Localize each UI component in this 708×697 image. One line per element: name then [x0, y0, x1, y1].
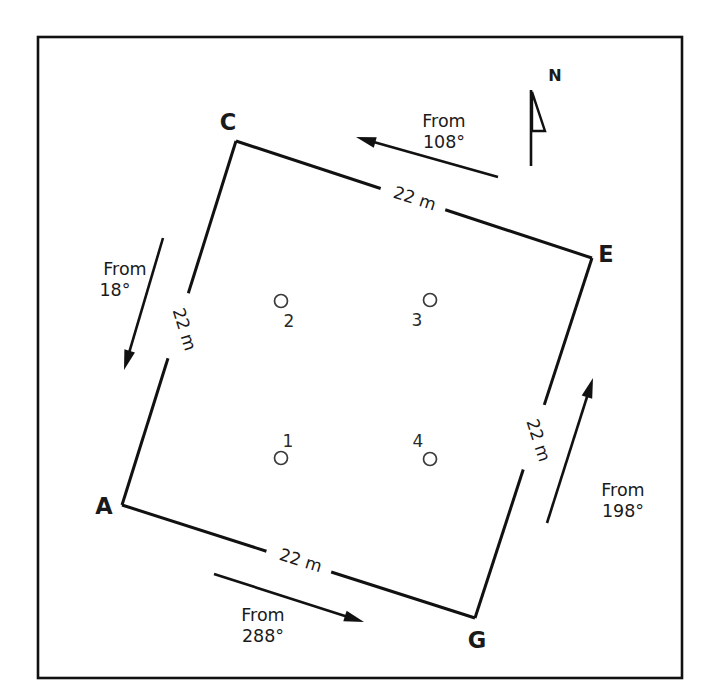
wind-198-from-label: From	[601, 480, 644, 500]
edge-AG-segment	[122, 505, 266, 551]
wind-288-arrowhead	[343, 611, 364, 622]
wind-108-degrees-label: 108°	[423, 132, 465, 152]
north-arrow-icon: N	[531, 66, 562, 166]
edge-CE-segment	[236, 141, 381, 189]
edge-CE-length-label: 22 m	[391, 182, 439, 214]
plot-edges	[122, 141, 592, 618]
edge-EG-segment	[475, 470, 523, 618]
edge-AC-segment	[188, 141, 236, 293]
corner-label-E: E	[598, 241, 613, 267]
station-3-marker	[424, 294, 437, 307]
wind-18-from-label: From	[103, 259, 146, 279]
edge-length-labels: 22 m22 m22 m22 m	[169, 182, 555, 576]
station-1-marker	[275, 452, 288, 465]
corner-label-G: G	[468, 627, 486, 653]
edge-AG-length-label: 22 m	[277, 544, 325, 576]
wind-288-degrees-label: 288°	[242, 626, 284, 646]
wind-18-arrowhead	[124, 349, 135, 370]
station-3-label: 3	[412, 310, 423, 330]
corner-label-A: A	[95, 493, 113, 519]
edge-AG-segment	[331, 572, 475, 618]
wind-18-degrees-label: 18°	[99, 280, 130, 300]
corner-labels: ACEG	[95, 109, 613, 653]
station-4-marker	[424, 453, 437, 466]
wind-198-arrowhead	[582, 378, 593, 399]
wind-direction-arrows: From108°From18°From198°From288°	[99, 111, 644, 646]
edge-AC-length-label: 22 m	[169, 305, 201, 353]
wind-108-from-label: From	[422, 111, 465, 131]
station-4-label: 4	[413, 431, 424, 451]
station-2-marker	[275, 295, 288, 308]
station-1-label: 1	[283, 431, 294, 451]
figure-container: 22 m22 m22 m22 m ACEG 1234 From108°From1…	[0, 0, 708, 697]
sampling-stations: 1234	[275, 294, 437, 466]
wind-288-from-label: From	[241, 605, 284, 625]
north-label: N	[548, 66, 561, 85]
edge-EG-segment	[544, 258, 592, 405]
station-2-label: 2	[284, 311, 295, 331]
survey-plot-diagram: 22 m22 m22 m22 m ACEG 1234 From108°From1…	[0, 0, 708, 697]
corner-label-C: C	[220, 109, 237, 135]
edge-CE-segment	[445, 210, 592, 258]
north-flag	[532, 92, 545, 131]
wind-108-arrowhead	[356, 137, 377, 148]
edge-AC-segment	[122, 358, 168, 505]
wind-18-shaft	[127, 238, 163, 359]
wind-198-degrees-label: 198°	[602, 501, 644, 521]
edge-EG-length-label: 22 m	[522, 416, 554, 464]
